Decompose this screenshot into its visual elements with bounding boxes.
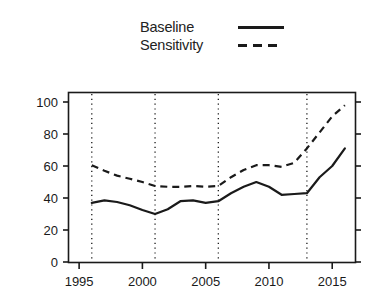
plot-area: 020406080100 19952000200520102015 (0, 0, 383, 307)
x-tick-label-2015: 2015 (318, 274, 347, 289)
y-tick-label-60: 60 (44, 159, 58, 174)
reference-lines-group (92, 94, 307, 261)
y-axis-group: 020406080100 (36, 95, 361, 270)
series-line-sensitivity (92, 105, 345, 187)
plot-frame (69, 93, 356, 263)
chart-figure: Baseline Sensitivity 020406080100 199520… (0, 0, 383, 307)
y-tick-label-100: 100 (36, 95, 58, 110)
x-axis-group: 19952000200520102015 (65, 262, 347, 289)
x-tick-label-2005: 2005 (191, 274, 220, 289)
x-tick-label-2010: 2010 (254, 274, 283, 289)
y-tick-label-0: 0 (51, 255, 58, 270)
y-tick-label-40: 40 (44, 191, 58, 206)
x-tick-label-2000: 2000 (128, 274, 157, 289)
x-tick-label-1995: 1995 (65, 274, 94, 289)
y-tick-label-80: 80 (44, 127, 58, 142)
y-tick-label-20: 20 (44, 223, 58, 238)
